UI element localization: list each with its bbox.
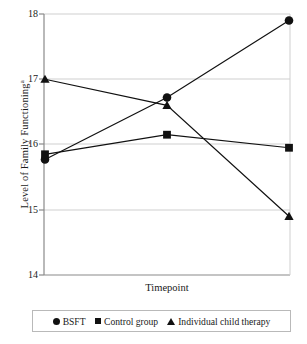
data-point [285, 16, 294, 25]
square-marker-icon [95, 318, 102, 325]
data-point [163, 93, 172, 102]
legend-item-bsft[interactable]: BSFT [53, 316, 86, 327]
chart-legend: BSFT Control group Individual child ther… [32, 310, 291, 332]
legend-label-bsft: BSFT [63, 316, 86, 327]
x-axis-label: Timepoint [44, 282, 290, 293]
chart-figure: Level of Family Functioninga 18 17 16 15… [0, 0, 307, 344]
legend-label-control-group: Control group [104, 316, 158, 327]
triangle-marker-icon [167, 318, 175, 325]
circle-marker-icon [53, 318, 60, 325]
legend-item-individual-child-therapy[interactable]: Individual child therapy [167, 316, 270, 327]
series-bsft [41, 16, 294, 164]
series-line [45, 21, 289, 160]
data-point [285, 144, 293, 152]
data-point [41, 150, 49, 158]
legend-label-individual-child-therapy: Individual child therapy [178, 316, 270, 327]
data-series-layer [40, 16, 293, 220]
data-point [163, 131, 171, 139]
legend-item-control-group[interactable]: Control group [95, 316, 159, 327]
